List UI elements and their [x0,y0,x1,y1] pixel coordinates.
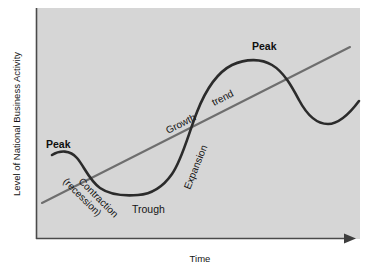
label-peak-right: Peak [252,40,277,52]
label-trough: Trough [132,203,165,215]
x-axis-label: Time [190,253,211,264]
label-peak-left: Peak [46,138,71,150]
business-cycle-chart: Level of National Business Activity Time… [0,0,365,271]
y-axis-label: Level of National Business Activity [11,52,22,196]
business-cycle-figure: Level of National Business Activity Time… [0,0,365,271]
